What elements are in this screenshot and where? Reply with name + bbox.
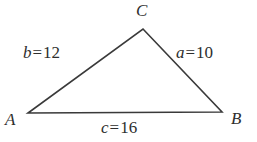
side-symbol-b: b [23, 43, 32, 62]
side-label-b: b=12 [23, 44, 60, 61]
equals-sign-b: = [32, 43, 44, 62]
vertex-label-a: A [5, 111, 15, 128]
side-label-c: c=16 [101, 119, 137, 136]
side-value-b: 12 [43, 43, 60, 62]
triangle-figure: A B C b=12 a=10 c=16 [0, 0, 257, 142]
side-value-a: 10 [196, 43, 213, 62]
equals-sign-c: = [109, 118, 121, 137]
vertex-label-b: B [231, 110, 241, 127]
equals-sign-a: = [185, 43, 197, 62]
vertex-label-c: C [136, 2, 147, 19]
triangle-outline [28, 29, 222, 113]
side-symbol-c: c [101, 118, 109, 137]
side-label-a: a=10 [176, 44, 213, 61]
side-value-c: 16 [120, 118, 137, 137]
side-symbol-a: a [176, 43, 185, 62]
